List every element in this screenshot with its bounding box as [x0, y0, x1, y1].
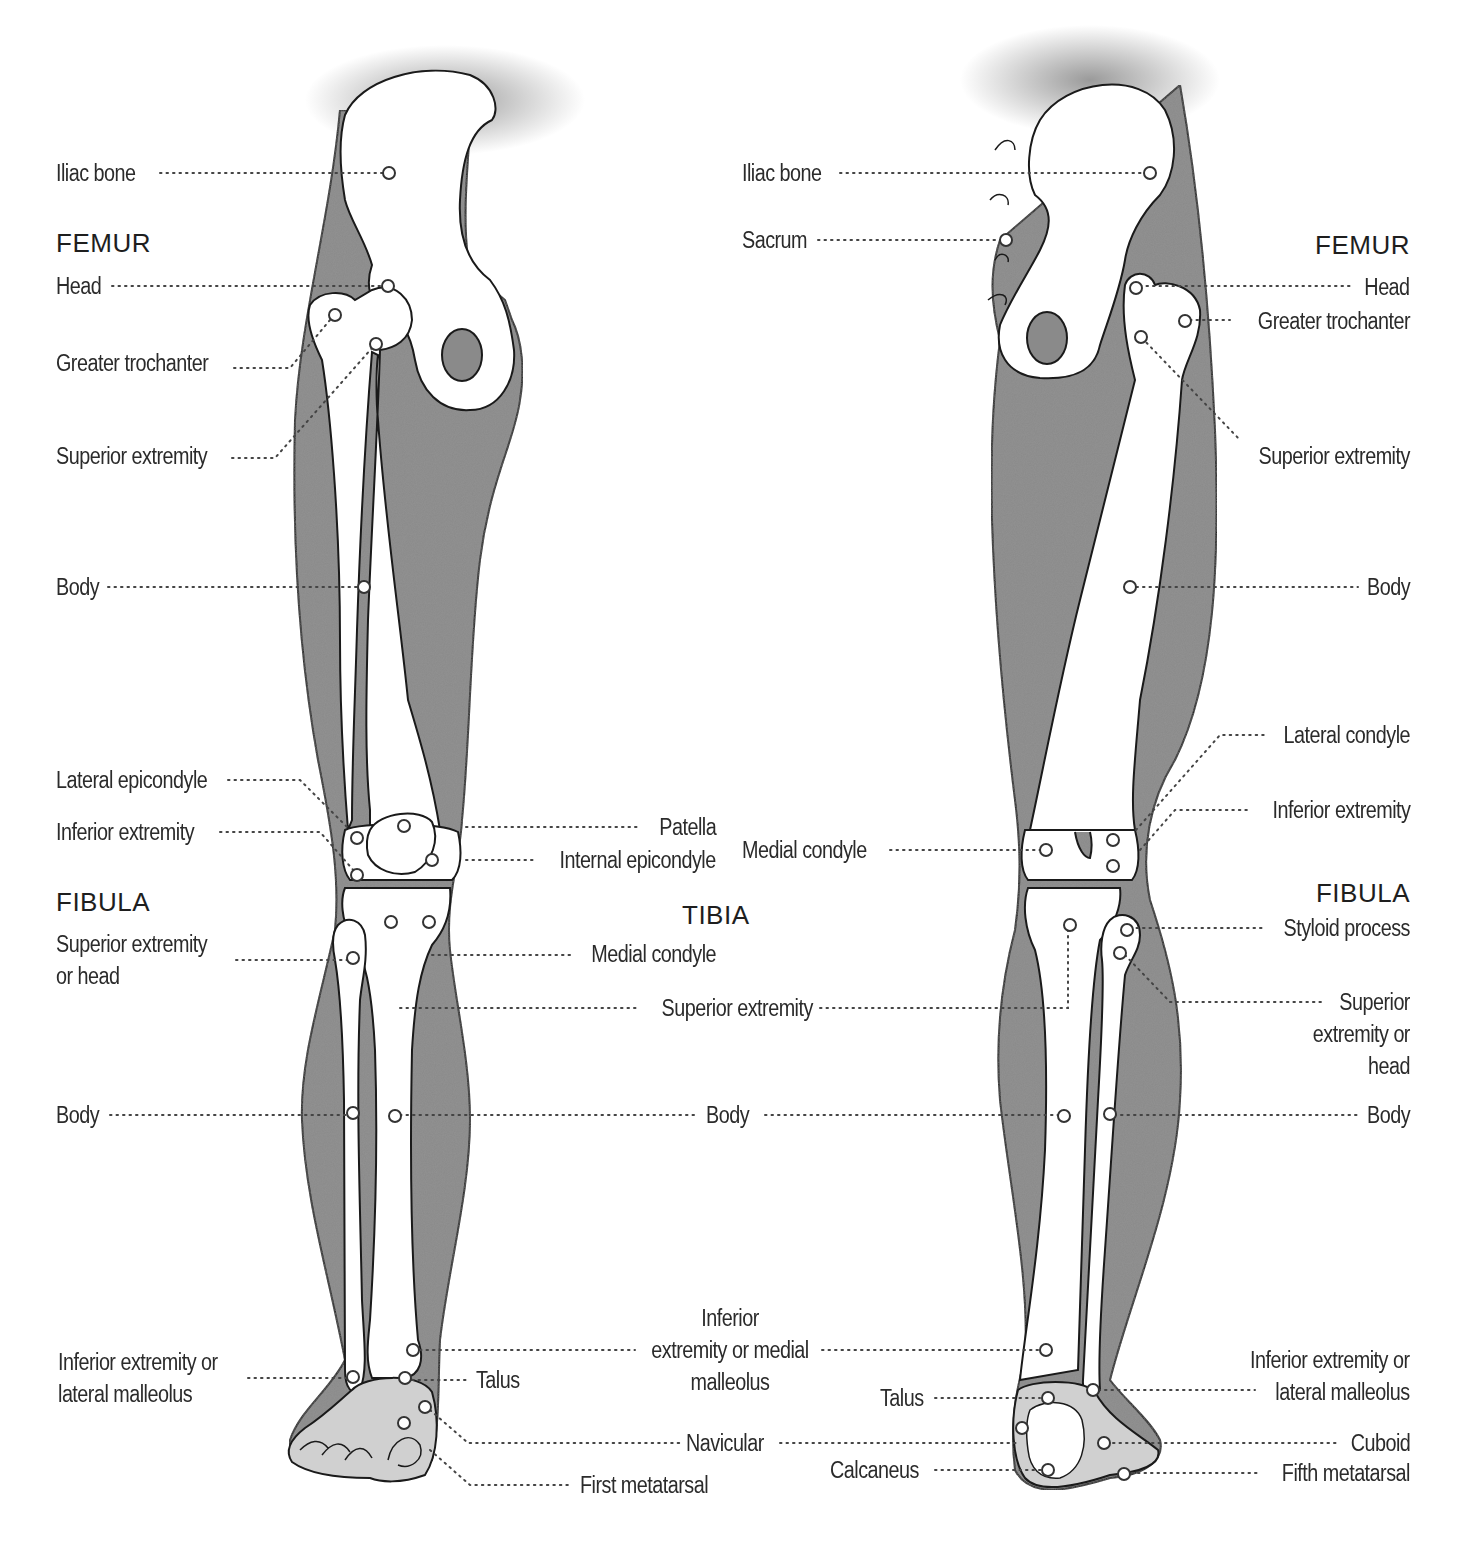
label-lateral-malleolus-posterior: Inferior extremity or lateral malleolus: [1250, 1344, 1410, 1408]
label-patella: Patella: [659, 811, 716, 843]
label-cuboid: Cuboid: [1350, 1427, 1410, 1459]
heading-tibia: TIBIA: [682, 900, 750, 931]
label-line: malleolus: [644, 1366, 816, 1398]
label-line: extremity or medial: [644, 1334, 816, 1366]
heading-femur: FEMUR: [56, 228, 151, 259]
label-line: extremity or: [1313, 1018, 1410, 1050]
label-iliac-bone-posterior: Iliac bone: [742, 157, 822, 189]
label-line: lateral malleolus: [1250, 1376, 1410, 1408]
label-tibia-body: Body: [706, 1099, 749, 1131]
label-iliac-bone: Iliac bone: [56, 157, 136, 189]
label-tibia-superior-extremity: Superior extremity: [662, 992, 813, 1024]
label-femur-inferior-extremity: Inferior extremity: [56, 816, 194, 848]
label-lateral-condyle: Lateral condyle: [1284, 719, 1410, 751]
label-line: head: [1313, 1050, 1410, 1082]
label-line: Inferior extremity or: [1250, 1344, 1410, 1376]
label-fibula-superior-extremity-posterior: Superior extremity or head: [1313, 986, 1410, 1082]
label-sacrum: Sacrum: [742, 224, 807, 256]
label-fibula-body: Body: [56, 1099, 99, 1131]
label-femur-superior-extremity: Superior extremity: [56, 440, 207, 472]
label-femur-body-posterior: Body: [1367, 571, 1410, 603]
calcaneus-shape: [1027, 1403, 1085, 1479]
label-fifth-metatarsal: Fifth metatarsal: [1282, 1457, 1410, 1489]
label-tibia-medial-condyle: Medial condyle: [591, 938, 716, 970]
label-femur-body: Body: [56, 571, 99, 603]
label-internal-epicondyle: Internal epicondyle: [560, 844, 716, 876]
label-talus-posterior: Talus: [880, 1382, 924, 1414]
label-line: Superior: [1313, 986, 1410, 1018]
anterior-view: [289, 45, 585, 1481]
label-femur-head: Head: [56, 270, 101, 302]
label-first-metatarsal: First metatarsal: [580, 1469, 708, 1501]
foot-shape: [289, 1378, 437, 1482]
label-styloid-process: Styloid process: [1284, 912, 1410, 944]
label-navicular: Navicular: [686, 1427, 764, 1459]
label-fibula-superior-extremity: Superior extremity or head: [56, 928, 207, 992]
label-line: or head: [56, 960, 207, 992]
label-fibula-body-posterior: Body: [1367, 1099, 1410, 1131]
heading-fibula-posterior: FIBULA: [1316, 878, 1410, 909]
heading-femur-posterior: FEMUR: [1315, 230, 1410, 261]
label-femur-inferior-extremity-posterior: Inferior extremity: [1272, 794, 1410, 826]
label-femur-head-posterior: Head: [1365, 271, 1410, 303]
label-medial-malleolus: Inferior extremity or medial malleolus: [644, 1302, 816, 1398]
label-femur-superior-extremity-posterior: Superior extremity: [1259, 440, 1410, 472]
label-lateral-epicondyle: Lateral epicondyle: [56, 764, 207, 796]
label-line: Superior extremity: [56, 928, 207, 960]
obturator-foramen-posterior: [1027, 312, 1067, 364]
label-calcaneus: Calcaneus: [830, 1454, 919, 1486]
obturator-foramen: [442, 329, 482, 381]
label-line: Inferior: [644, 1302, 816, 1334]
label-line: Inferior extremity or: [58, 1346, 218, 1378]
label-greater-trochanter: Greater trochanter: [56, 347, 208, 379]
label-lateral-malleolus: Inferior extremity or lateral malleolus: [58, 1346, 218, 1410]
heading-fibula: FIBULA: [56, 887, 150, 918]
label-greater-trochanter-posterior: Greater trochanter: [1258, 305, 1410, 337]
label-talus: Talus: [476, 1364, 520, 1396]
label-line: lateral malleolus: [58, 1378, 218, 1410]
label-medial-condyle-posterior: Medial condyle: [742, 834, 867, 866]
posterior-view: [960, 25, 1220, 1490]
